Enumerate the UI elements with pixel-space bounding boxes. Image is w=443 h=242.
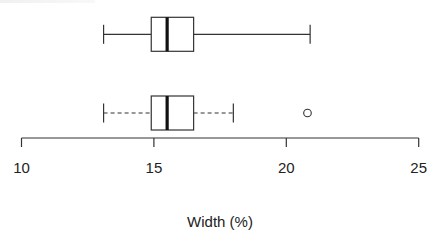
boxplot-series-group [104, 17, 312, 130]
x-axis-title: Width (%) [187, 213, 253, 230]
box-iqr [151, 96, 193, 130]
outlier-point [304, 109, 312, 117]
box-iqr [151, 17, 193, 51]
x-tick-label: 10 [13, 159, 30, 176]
boxplot-chart: 10152025 Width (%) [0, 0, 443, 242]
x-tick-label: 25 [410, 159, 427, 176]
x-axis-ticks: 10152025 [13, 138, 427, 176]
boxplot-bottom [104, 96, 312, 130]
boxplot-top [104, 17, 311, 51]
x-tick-label: 15 [146, 159, 163, 176]
x-tick-label: 20 [278, 159, 295, 176]
x-axis: 10152025 [13, 138, 427, 176]
